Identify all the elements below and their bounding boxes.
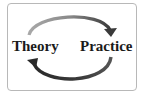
diagram-canvas: Theory Practice (0, 0, 142, 96)
node-practice-label: Practice (80, 39, 132, 54)
node-theory-label: Theory (12, 39, 59, 54)
